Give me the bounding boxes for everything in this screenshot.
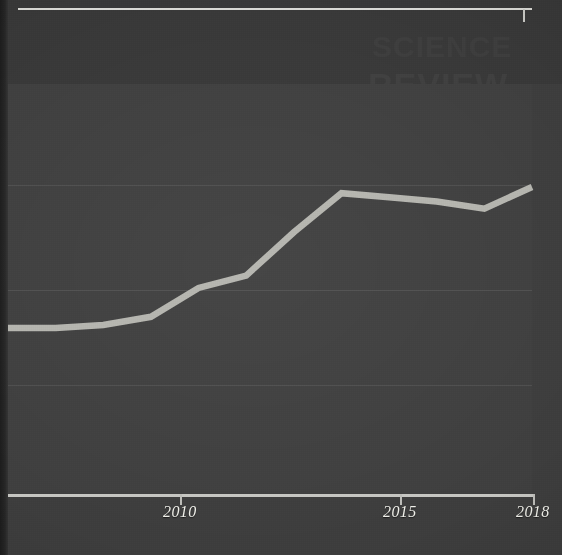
page-edge-strip: [0, 0, 8, 555]
top-rule-tick: [523, 9, 525, 22]
upper-margin-band: [0, 0, 562, 84]
chart-figure: SCIENCE REVIEW THE DATA figure 201020152…: [0, 0, 562, 555]
series-polyline: [8, 187, 532, 328]
x-axis-line: [8, 494, 533, 497]
x-axis-label-2018: 2018: [516, 503, 550, 521]
x-axis-label-2015: 2015: [383, 503, 417, 521]
series-line-chart: [8, 84, 532, 496]
x-axis-label-2010: 2010: [163, 503, 197, 521]
plot-area: [8, 84, 532, 496]
top-rule: [18, 8, 532, 10]
